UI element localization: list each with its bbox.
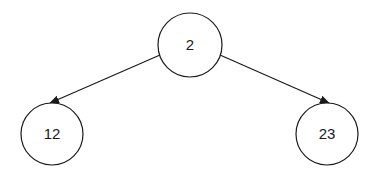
node-root-label: 2: [186, 36, 194, 53]
tree-diagram: 2 12 23: [0, 0, 375, 179]
node-root: 2: [158, 13, 222, 77]
node-left: 12: [21, 103, 83, 165]
edge-root-to-left: [50, 55, 160, 103]
node-right-label: 23: [319, 125, 336, 142]
node-left-label: 12: [44, 125, 61, 142]
node-right: 23: [296, 103, 358, 165]
edge-root-to-right: [220, 55, 329, 103]
